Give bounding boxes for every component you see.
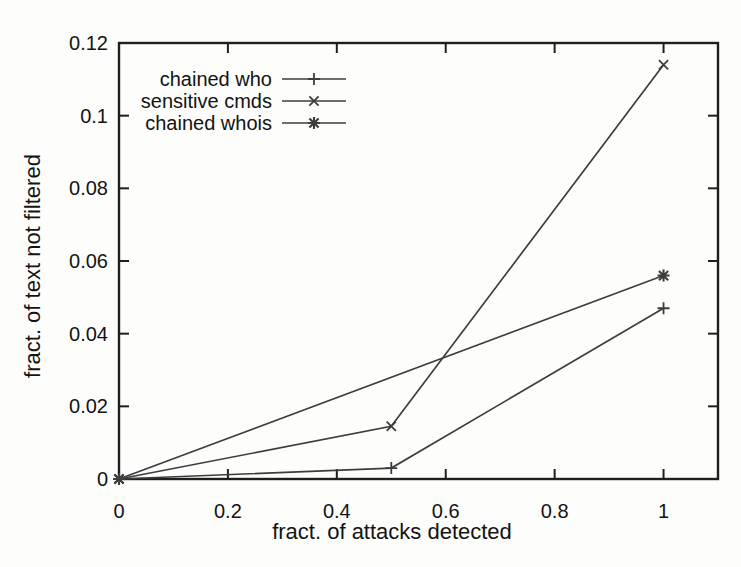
x-tick-label: 0.2 bbox=[214, 500, 242, 522]
y-axis-title: fract. of text not filtered bbox=[20, 154, 45, 378]
legend-marker-chained-whois bbox=[308, 117, 320, 129]
legend-entry-chained-whois: chained whois bbox=[145, 112, 346, 134]
y-tick-label: 0.06 bbox=[69, 250, 108, 272]
y-tick-label: 0.12 bbox=[69, 32, 108, 54]
y-tick-label: 0 bbox=[97, 468, 108, 490]
y-tick-label: 0.04 bbox=[69, 323, 108, 345]
data-point-chained-whois bbox=[113, 473, 125, 485]
legend-label-sensitive-cmds: sensitive cmds bbox=[141, 90, 272, 112]
series-chained-whois bbox=[113, 270, 670, 485]
legend: chained whosensitive cmdschained whois bbox=[141, 68, 346, 134]
data-point-sensitive-cmds bbox=[659, 60, 668, 69]
x-axis-title: fract. of attacks detected bbox=[272, 519, 512, 544]
legend-entry-sensitive-cmds: sensitive cmds bbox=[141, 90, 346, 112]
legend-marker-chained-who bbox=[308, 73, 320, 85]
y-tick-label: 0.08 bbox=[69, 177, 108, 199]
legend-label-chained-whois: chained whois bbox=[145, 112, 272, 134]
x-tick-label: 1 bbox=[658, 500, 669, 522]
data-point-chained-who bbox=[385, 462, 397, 474]
data-point-chained-who bbox=[658, 302, 670, 314]
x-tick-label: 0.8 bbox=[541, 500, 569, 522]
series-chained-who bbox=[113, 302, 670, 485]
legend-entry-chained-who: chained who bbox=[160, 68, 346, 90]
data-point-chained-whois bbox=[658, 270, 670, 282]
x-tick-label: 0 bbox=[113, 500, 124, 522]
y-tick-label: 0.02 bbox=[69, 395, 108, 417]
series-line-chained-who bbox=[119, 308, 664, 479]
chart-figure: 00.20.40.60.8100.020.040.060.080.10.12fr… bbox=[0, 0, 741, 567]
line-chart-canvas: 00.20.40.60.8100.020.040.060.080.10.12fr… bbox=[0, 0, 741, 567]
legend-label-chained-who: chained who bbox=[160, 68, 272, 90]
y-tick-label: 0.1 bbox=[80, 105, 108, 127]
series-line-chained-whois bbox=[119, 276, 664, 479]
